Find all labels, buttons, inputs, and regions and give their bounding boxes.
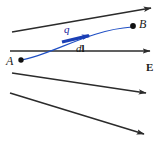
field-line-3-lower	[12, 73, 146, 93]
point-a-marker	[18, 57, 23, 62]
field-line-4-bottom	[10, 93, 144, 134]
charge-label: q	[64, 24, 70, 35]
displacement-label: dl	[76, 43, 85, 54]
point-b-label: B	[139, 18, 146, 30]
point-a-label: A	[6, 55, 13, 67]
point-b-marker	[130, 23, 136, 29]
electric-field-label: E	[146, 62, 153, 73]
physics-figure: A B E q dl	[0, 0, 166, 141]
field-line-1-top	[12, 8, 151, 32]
displacement-l-part: l	[82, 42, 85, 54]
